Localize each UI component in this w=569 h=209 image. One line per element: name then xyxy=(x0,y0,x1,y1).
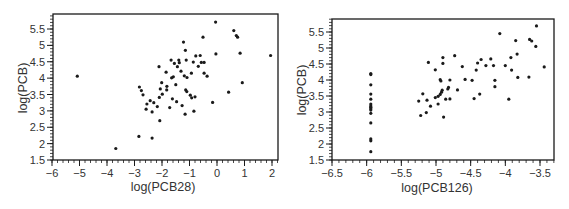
data-point xyxy=(369,73,372,76)
scatter-charts: −6−5−4−3−2−1012 1.522.533.544.555.5 log(… xyxy=(0,0,569,209)
data-point xyxy=(214,52,217,55)
y-tick-label: 3.5 xyxy=(30,89,45,101)
y-tick-label: 4 xyxy=(39,72,45,84)
data-point xyxy=(461,65,464,68)
data-point xyxy=(498,32,501,35)
data-point xyxy=(151,137,154,140)
y-tick-label: 3 xyxy=(39,105,45,117)
data-point xyxy=(236,36,239,39)
x-tick-label: −4 xyxy=(101,167,114,179)
data-point xyxy=(429,105,432,108)
x-tick-label: −5 xyxy=(73,167,86,179)
data-point xyxy=(190,72,193,75)
y-axis-ticks: 1.522.533.544.555.5 xyxy=(30,16,53,166)
data-point xyxy=(174,83,177,86)
data-point xyxy=(201,36,204,39)
data-point xyxy=(211,101,214,104)
data-point xyxy=(369,121,372,124)
x-tick-label: −4 xyxy=(499,167,512,179)
x-tick-label: −2 xyxy=(156,167,169,179)
data-point xyxy=(441,62,444,65)
data-point xyxy=(421,92,424,95)
data-point xyxy=(369,150,372,153)
data-point xyxy=(197,65,200,68)
y-tick-label: 3 xyxy=(318,106,324,118)
y-axis-ticks: 1.522.533.544.555.5 xyxy=(309,19,332,166)
data-point xyxy=(269,54,272,57)
data-point xyxy=(489,57,492,60)
x-tick-label: −6 xyxy=(46,167,59,179)
data-point xyxy=(369,109,372,112)
x-tick-label: −6.5 xyxy=(321,167,343,179)
data-points xyxy=(369,24,546,153)
data-point xyxy=(161,93,164,96)
data-point xyxy=(453,54,456,57)
data-point xyxy=(168,106,171,109)
data-point xyxy=(165,88,168,91)
data-point xyxy=(199,54,202,57)
data-point xyxy=(185,59,188,62)
data-point xyxy=(492,64,495,67)
data-point xyxy=(425,99,428,102)
data-point xyxy=(369,98,372,101)
data-point xyxy=(145,108,148,111)
data-point xyxy=(182,41,185,44)
data-point xyxy=(478,93,481,96)
x-tick-label: −4.5 xyxy=(460,167,482,179)
x-tick-label: −6 xyxy=(360,167,373,179)
data-point xyxy=(190,96,193,99)
y-tick-label: 2.5 xyxy=(309,122,324,134)
data-point xyxy=(419,114,422,117)
data-point xyxy=(439,79,442,82)
data-point xyxy=(149,99,152,102)
data-point xyxy=(140,89,143,92)
data-point xyxy=(194,54,197,57)
data-point xyxy=(203,72,206,75)
data-point xyxy=(157,65,160,68)
data-point xyxy=(509,56,512,59)
data-point xyxy=(456,88,459,91)
data-point xyxy=(369,112,372,115)
data-point xyxy=(534,45,537,48)
data-point xyxy=(241,81,244,84)
data-point xyxy=(441,89,444,92)
data-point xyxy=(114,147,117,150)
data-point xyxy=(434,96,437,99)
data-point xyxy=(437,102,440,105)
y-tick-label: 4.5 xyxy=(30,56,45,68)
data-point xyxy=(185,90,188,93)
data-point xyxy=(484,64,487,67)
y-tick-label: 1.5 xyxy=(30,154,45,166)
data-point xyxy=(165,71,168,74)
y-tick-label: 5 xyxy=(39,39,45,51)
data-point xyxy=(530,39,533,42)
data-point xyxy=(200,61,203,64)
data-point xyxy=(160,81,163,84)
data-point xyxy=(176,65,179,68)
data-point xyxy=(171,97,174,100)
x-tick-label: −3.5 xyxy=(529,167,551,179)
data-point xyxy=(152,101,155,104)
data-point xyxy=(183,74,186,77)
data-point xyxy=(448,97,451,100)
y-tick-label: 3.5 xyxy=(309,90,324,102)
data-point xyxy=(178,61,181,64)
x-axis-ticks: −6−5−4−3−2−1012 xyxy=(46,160,278,179)
data-point xyxy=(170,59,173,62)
data-point xyxy=(214,21,217,24)
y-axis-label: log(PCB) xyxy=(295,65,309,116)
data-point xyxy=(480,58,483,61)
data-point xyxy=(192,61,195,64)
x-axis-ticks: −6.5−6−5.5−5−4.5−4−3.5 xyxy=(321,160,554,179)
data-point xyxy=(543,65,546,68)
data-point xyxy=(232,29,235,32)
data-point xyxy=(184,113,187,116)
x-tick-label: −5 xyxy=(430,167,443,179)
data-point xyxy=(473,97,476,100)
data-point xyxy=(471,79,474,82)
data-point xyxy=(369,93,372,96)
data-point xyxy=(137,135,140,138)
x-tick-label: −1 xyxy=(183,167,196,179)
y-tick-label: 5 xyxy=(318,42,324,54)
data-point xyxy=(516,76,519,79)
